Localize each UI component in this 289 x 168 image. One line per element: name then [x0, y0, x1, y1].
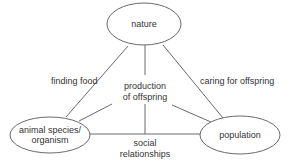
node-animal-label-line2: organism [31, 135, 68, 145]
edge-label-social-line1: social [133, 138, 156, 148]
node-population-label: population [219, 130, 261, 140]
center-label-line1: production [124, 81, 166, 91]
edge-label-social-line2: relationships [120, 149, 171, 159]
edge-center-animal [79, 104, 112, 121]
node-animal-label-line1: animal species/ [19, 125, 82, 135]
node-population: population [200, 116, 280, 154]
edge-label-caring-for-offspring: caring for offspring [200, 76, 274, 86]
edge-label-finding-food: finding food [51, 76, 98, 86]
triangle-diagram: nature animal species/ organism populati… [0, 0, 289, 168]
center-label-line2: of offspring [123, 92, 167, 102]
node-nature-label: nature [131, 19, 157, 29]
edge-center-population [172, 105, 211, 122]
node-nature: nature [107, 3, 181, 45]
node-animal-species: animal species/ organism [10, 117, 90, 153]
